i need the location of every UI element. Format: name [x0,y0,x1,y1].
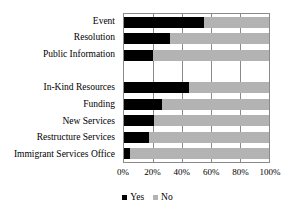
bar-row [124,33,269,44]
legend-item[interactable]: No [153,192,173,203]
category-label: New Services [0,116,119,127]
plot-area [123,13,270,163]
bar-segment-yes [124,99,162,110]
bar-segment-no [130,148,269,159]
x-axis-tick-label: 0% [117,166,129,178]
bar-row [124,132,269,143]
legend-item[interactable]: Yes [122,192,144,203]
category-label: Funding [0,99,119,110]
bar-row [124,115,269,126]
category-label: Resolution [0,32,119,43]
category-label: Restructure Services [0,132,119,143]
bar-row [124,148,269,159]
bar-segment-no [189,82,269,93]
bar-segment-yes [124,132,149,143]
legend-label: Yes [130,192,144,203]
bar-segment-no [154,115,269,126]
bar-segment-yes [124,115,154,126]
bar-segment-yes [124,50,153,61]
category-label: Public Information [0,49,119,60]
bar-segment-no [170,33,269,44]
bar-row [124,99,269,110]
legend-swatch-icon [153,195,158,200]
bar-segment-yes [124,82,189,93]
x-axis-tick-labels: 0%20%40%60%80%100% [123,166,270,180]
bar-segment-no [162,99,269,110]
category-label: Immigrant Services Office [0,149,119,160]
bar-row [124,17,269,28]
x-axis-tick-label: 80% [232,166,249,178]
bar-rows [124,14,269,162]
x-axis-tick-label: 60% [203,166,220,178]
legend-label: No [161,192,173,203]
x-axis-tick-label: 20% [144,166,161,178]
bar-segment-yes [124,33,170,44]
bar-row [124,82,269,93]
bar-segment-no [153,50,269,61]
bar-row [124,50,269,61]
bar-segment-no [149,132,269,143]
legend-swatch-icon [122,195,127,200]
category-label: Event [0,16,119,27]
chart-legend: YesNo [0,192,295,203]
bar-segment-no [204,17,269,28]
bar-segment-yes [124,17,204,28]
category-label: In-Kind Resources [0,82,119,93]
stacked-bar-chart: Event Resolution Public Information In-K… [0,0,295,214]
category-axis-labels: Event Resolution Public Information In-K… [0,13,119,163]
x-axis-tick-label: 40% [174,166,191,178]
x-axis-tick-label: 100% [260,166,281,178]
